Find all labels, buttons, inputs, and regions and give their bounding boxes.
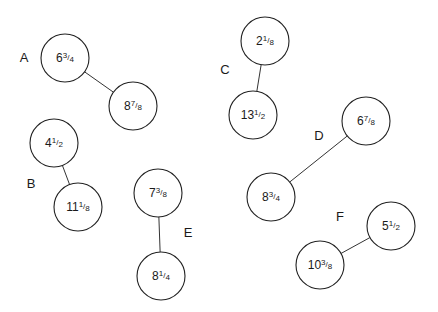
pair-label: E [184,225,193,240]
paired-node-diagram: A63/487/8B41/2111/8C21/8131/2D67/883/4E7… [0,0,438,312]
pair-f: F51/2103/8 [296,202,415,289]
pair-label: A [20,50,29,65]
pair-c: C21/8131/2 [220,17,289,139]
connector-line [341,238,370,254]
pair-label: B [27,176,36,191]
pair-label: D [314,128,323,143]
node-circle: 41/2 [30,119,78,167]
node-circle: 63/4 [41,34,89,82]
connector-line [62,165,69,184]
node-circle: 131/2 [229,91,277,139]
pair-label: F [336,209,344,224]
connector-line [159,217,160,252]
connector-line [257,65,261,92]
node-circle: 103/8 [296,241,344,289]
node-circle: 83/4 [247,173,295,221]
pair-label: C [220,62,229,77]
node-circle: 111/8 [54,183,102,231]
node-circle: 87/8 [109,82,157,130]
pair-a: A63/487/8 [20,34,157,130]
node-circle: 51/2 [367,202,415,250]
node-circle: 73/8 [134,169,182,217]
pair-e: E73/881/4 [134,169,193,300]
connector-line [85,72,114,92]
node-circle: 67/8 [342,97,390,145]
node-circle: 81/4 [137,252,185,300]
node-circle: 21/8 [241,17,289,65]
pair-b: B41/2111/8 [27,119,102,231]
